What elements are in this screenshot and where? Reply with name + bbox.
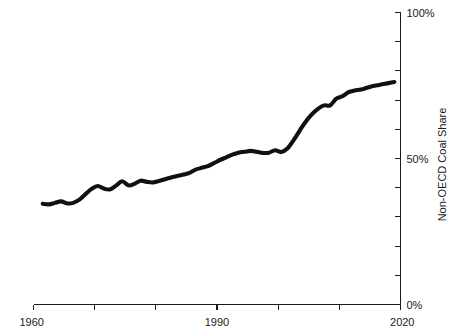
y-axis-tick-label: 50% — [407, 153, 429, 165]
line-chart: 196019902020 100%50%0% Non-OECD Coal Sha… — [0, 0, 462, 334]
chart-container: 196019902020 100%50%0% Non-OECD Coal Sha… — [0, 0, 462, 334]
y-axis-title-group: Non-OECD Coal Share — [436, 108, 448, 222]
y-axis-tick-label: 0% — [407, 299, 423, 311]
x-axis-tick-label: 2020 — [390, 316, 414, 328]
series-line — [43, 82, 395, 204]
x-axis-tick-label: 1990 — [205, 316, 229, 328]
x-axis-tick-label: 1960 — [20, 316, 44, 328]
x-axis: 196019902020 — [20, 305, 415, 328]
y-axis: 100%50%0% — [395, 7, 435, 311]
y-axis-title: Non-OECD Coal Share — [436, 108, 448, 222]
y-axis-tick-label: 100% — [407, 7, 435, 19]
data-series-group — [43, 82, 395, 204]
